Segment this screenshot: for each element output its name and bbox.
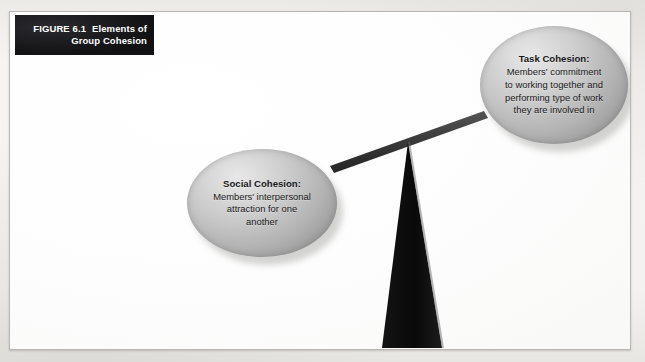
figure-page: Social Cohesion:Members' interpersonal a… <box>0 0 645 362</box>
figure-caption-banner: FIGURE 6.1Elements of Group Cohesion <box>15 15 154 55</box>
task-cohesion-text: Task Cohesion:Members' commitment to wor… <box>505 53 603 116</box>
figure-canvas: Social Cohesion:Members' interpersonal a… <box>10 12 630 349</box>
figure-caption-label: FIGURE 6.1 <box>33 23 86 34</box>
node-social-cohesion[interactable]: Social Cohesion:Members' interpersonal a… <box>187 149 337 257</box>
task-cohesion-title: Task Cohesion: <box>505 53 603 66</box>
social-cohesion-title: Social Cohesion: <box>213 178 311 191</box>
figure-caption-text: FIGURE 6.1Elements of Group Cohesion <box>33 23 147 48</box>
social-cohesion-body: Members' interpersonal attraction for on… <box>213 191 311 227</box>
fulcrum-triangle <box>370 140 448 349</box>
task-cohesion-body: Members' commitment to working together … <box>505 66 603 115</box>
node-task-cohesion[interactable]: Task Cohesion:Members' commitment to wor… <box>480 26 628 144</box>
figure-frame: Social Cohesion:Members' interpersonal a… <box>9 11 631 350</box>
social-cohesion-text: Social Cohesion:Members' interpersonal a… <box>213 178 311 229</box>
